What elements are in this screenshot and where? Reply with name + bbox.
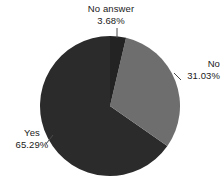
pie-label-no-name: No (187, 58, 220, 70)
pie-label-no-answer: No answer 3.68% (0, 3, 222, 26)
pie-label-no-answer-percent: 3.68% (0, 15, 222, 27)
pie-label-no-answer-name: No answer (0, 3, 222, 15)
pie-label-yes-percent: 65.29% (4, 139, 60, 151)
pie-label-yes: Yes 65.29% (4, 127, 60, 150)
pie-label-no: No 31.03% (187, 58, 220, 81)
pie-label-yes-name: Yes (4, 127, 60, 139)
pie-chart-svg (0, 0, 222, 188)
leader-line-no (174, 73, 181, 80)
pie-label-no-percent: 31.03% (187, 70, 220, 82)
pie-chart: No answer 3.68% No 31.03% Yes 65.29% (0, 0, 222, 188)
